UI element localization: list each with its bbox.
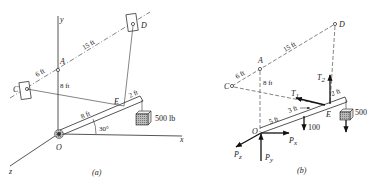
label-d-b: D: [338, 20, 345, 29]
force-t1-label: T1: [291, 89, 299, 100]
caption-b: (b): [297, 166, 307, 175]
force-px-label: Px: [288, 136, 298, 147]
force-t2-label: T2: [317, 73, 325, 84]
label-e-a: E: [113, 97, 119, 106]
dim-oa-b: 8 ft: [263, 79, 273, 87]
point-d-b: [333, 22, 336, 25]
point-d-a: [131, 22, 134, 25]
force-pz-label: Pz: [233, 150, 242, 161]
angle-label: 30°: [99, 125, 109, 133]
z-axis-a: [10, 134, 58, 166]
bracket-c: [19, 81, 31, 99]
load-box-b: [340, 109, 353, 120]
label-a-b: A: [257, 56, 263, 65]
dim-oa-a: 8 ft: [60, 82, 70, 90]
caption-a: (a): [92, 168, 102, 177]
label-o-a: O: [56, 143, 62, 152]
force-py-label: Py: [264, 153, 274, 164]
dim-e-end-b: 2 ft: [330, 87, 342, 98]
dim-ad-b: 15 ft: [282, 40, 297, 53]
point-c-b: [230, 84, 233, 87]
point-a-b: [258, 67, 261, 70]
load-label-a: 500 lb: [155, 114, 175, 123]
dim-e-end-a: 2 ft: [127, 89, 139, 100]
dim-o-mid-b: 5 ft: [268, 115, 280, 126]
label-a-a: A: [59, 57, 65, 66]
dim-oe-a: 8 ft: [80, 110, 92, 121]
label-d-a: D: [140, 21, 147, 30]
dim-mid-e-b: 3 ft: [287, 104, 299, 115]
load-label-b: 500: [355, 108, 367, 117]
ball-joint-center: [57, 132, 61, 136]
load-box-a: [136, 111, 151, 125]
figure-b: C A D 6 ft 15 ft 8 ft 5 ft 3 ft 2 ft E T…: [224, 20, 367, 175]
label-e-b: E: [325, 110, 331, 119]
force-pz-arrow: [236, 133, 261, 147]
y-axis-label: y: [59, 15, 64, 24]
dim-ca-b: 6 ft: [234, 69, 246, 81]
figure-a: y x z C D A 6 ft 15 ft 8 ft E 2 ft 8 f: [8, 12, 184, 177]
x-axis-label: x: [179, 135, 184, 144]
z-axis-label: z: [8, 167, 13, 176]
bar-end-cap: [140, 96, 143, 101]
point-a-a: [56, 68, 59, 71]
cable-ce-a: [27, 89, 124, 106]
weight-bar-label: 100: [308, 123, 320, 132]
x-axis-a: [60, 134, 182, 136]
label-c-b: C: [224, 82, 230, 91]
diagram-canvas: y x z C D A 6 ft 15 ft 8 ft E 2 ft 8 f: [0, 0, 378, 188]
label-c-a: C: [13, 85, 19, 94]
force-t1-arrow: [296, 98, 325, 105]
